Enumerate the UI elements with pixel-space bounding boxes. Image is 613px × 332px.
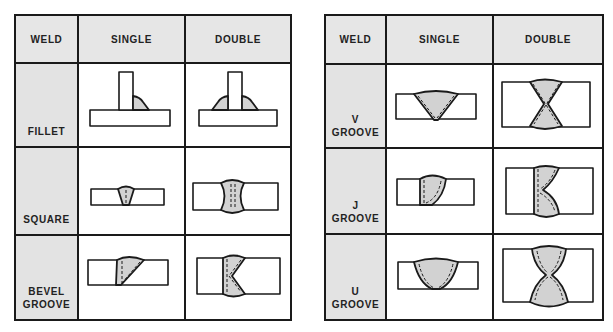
u-double-diagram [503,246,593,307]
fillet-single-diagram [90,72,170,126]
j-single-diagram [397,176,474,206]
fillet-double-diagram [199,72,277,126]
u-single-diagram [398,259,478,290]
weld-diagrams [0,0,613,332]
square-double-diagram [193,180,278,213]
bevel-single-diagram [88,257,168,285]
v-single-diagram [396,91,476,120]
bevel-double-diagram [197,256,280,297]
j-double-diagram [506,166,593,217]
v-double-diagram [502,80,590,130]
square-single-diagram [91,187,164,206]
